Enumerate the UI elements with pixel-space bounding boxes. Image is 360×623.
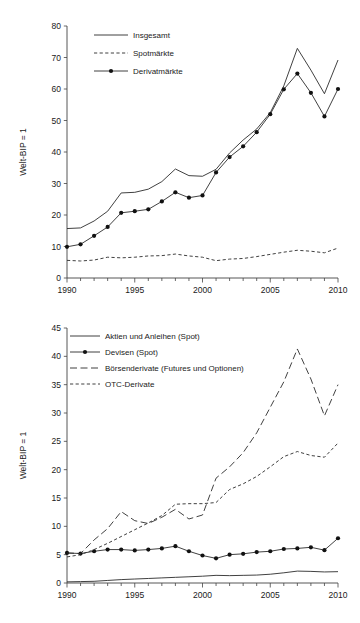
x-tick-label: 1995 — [125, 285, 144, 295]
data-point-marker — [187, 196, 191, 200]
y-tick-label: 20 — [52, 465, 62, 475]
data-point-marker — [336, 87, 340, 91]
data-point-marker — [146, 207, 150, 211]
y-tick-label: 60 — [52, 84, 62, 94]
data-point-marker — [241, 144, 245, 148]
y-tick-label: 80 — [52, 21, 62, 31]
series-line-1 — [67, 248, 338, 261]
data-point-marker — [228, 553, 232, 557]
legend-swatch-marker-1 — [83, 350, 87, 354]
y-tick-label: 70 — [52, 53, 62, 63]
chart-panel-bottom: 05101520253035404519901995200020052010We… — [0, 310, 360, 623]
legend-label-0: Insgesamt — [133, 31, 171, 40]
legend-label-2: Börsenderivate (Futures und Optionen) — [105, 364, 244, 373]
legend-label-1: Devisen (Spot) — [105, 348, 158, 357]
y-tick-label: 35 — [52, 380, 62, 390]
chart-svg-top: 0102030405060708019901995200020052010Wel… — [0, 0, 360, 310]
data-point-marker — [187, 549, 191, 553]
data-point-marker — [173, 544, 177, 548]
x-tick-label: 2000 — [193, 590, 212, 600]
chart-panel-top: 0102030405060708019901995200020052010Wel… — [0, 0, 360, 310]
data-point-marker — [336, 536, 340, 540]
y-tick-label: 50 — [52, 116, 62, 126]
y-tick-label: 0 — [56, 578, 61, 588]
data-point-marker — [119, 211, 123, 215]
data-point-marker — [255, 130, 259, 134]
legend-label-0: Aktien und Anleihen (Spot) — [105, 332, 200, 341]
data-point-marker — [119, 547, 123, 551]
data-point-marker — [78, 242, 82, 246]
series-line-3 — [67, 443, 338, 557]
data-point-marker — [160, 199, 164, 203]
y-axis-label: Welt-BIP = 1 — [18, 128, 28, 176]
y-tick-label: 30 — [52, 179, 62, 189]
y-tick-label: 0 — [56, 273, 61, 283]
data-point-marker — [241, 552, 245, 556]
y-axis-label: Welt-BIP = 1 — [18, 431, 28, 479]
data-point-marker — [268, 549, 272, 553]
data-point-marker — [309, 545, 313, 549]
data-point-marker — [92, 234, 96, 238]
data-point-marker — [106, 225, 110, 229]
chart-svg-bottom: 05101520253035404519901995200020052010We… — [0, 310, 360, 623]
legend-label-3: OTC-Derivate — [105, 380, 155, 389]
y-tick-label: 20 — [52, 210, 62, 220]
data-point-marker — [106, 547, 110, 551]
data-point-marker — [322, 548, 326, 552]
y-tick-label: 40 — [52, 351, 62, 361]
y-tick-label: 25 — [52, 436, 62, 446]
y-tick-label: 10 — [52, 521, 62, 531]
y-tick-label: 30 — [52, 408, 62, 418]
legend-label-2: Derivatmärkte — [133, 67, 183, 76]
x-tick-label: 2010 — [329, 285, 348, 295]
data-point-marker — [65, 245, 69, 249]
series-line-0 — [67, 571, 338, 582]
legend-label-1: Spotmärkte — [133, 49, 174, 58]
y-tick-label: 45 — [52, 323, 62, 333]
data-point-marker — [295, 546, 299, 550]
series-line-2 — [67, 74, 338, 247]
data-point-marker — [322, 114, 326, 118]
data-point-marker — [133, 209, 137, 213]
data-point-marker — [173, 190, 177, 194]
data-point-marker — [146, 547, 150, 551]
legend-swatch-marker-2 — [109, 69, 113, 73]
data-point-marker — [228, 155, 232, 159]
data-point-marker — [309, 91, 313, 95]
data-point-marker — [214, 556, 218, 560]
y-tick-label: 5 — [56, 550, 61, 560]
data-point-marker — [282, 547, 286, 551]
x-tick-label: 2005 — [261, 590, 280, 600]
data-point-marker — [133, 548, 137, 552]
y-tick-label: 40 — [52, 147, 62, 157]
data-point-marker — [282, 87, 286, 91]
data-point-marker — [268, 112, 272, 116]
data-point-marker — [214, 170, 218, 174]
data-point-marker — [295, 71, 299, 75]
y-tick-label: 15 — [52, 493, 62, 503]
x-tick-label: 1995 — [125, 590, 144, 600]
data-point-marker — [200, 553, 204, 557]
x-tick-label: 1990 — [58, 590, 77, 600]
data-point-marker — [160, 546, 164, 550]
x-tick-label: 2005 — [261, 285, 280, 295]
x-tick-label: 2000 — [193, 285, 212, 295]
x-tick-label: 2010 — [329, 590, 348, 600]
x-tick-label: 1990 — [58, 285, 77, 295]
data-point-marker — [255, 550, 259, 554]
y-tick-label: 10 — [52, 242, 62, 252]
data-point-marker — [200, 193, 204, 197]
